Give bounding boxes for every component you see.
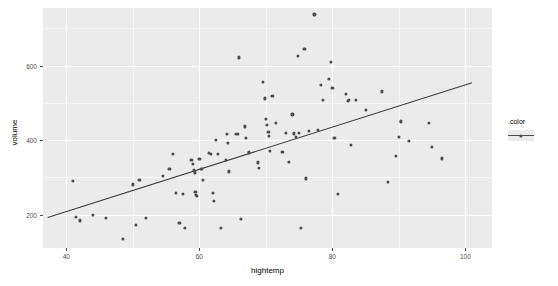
x-axis-tick	[199, 248, 200, 251]
x-axis-tick	[465, 248, 466, 251]
x-axis-title: hightemp	[43, 266, 492, 275]
x-axis-tick-label: 80	[329, 253, 336, 260]
trend-line	[43, 8, 492, 248]
legend: .color	[508, 118, 558, 141]
y-axis-tick-label: 600	[15, 62, 37, 69]
y-axis-title: volume	[10, 103, 19, 163]
x-axis-tick	[66, 248, 67, 251]
y-axis-tick	[40, 140, 43, 141]
x-axis-tick	[332, 248, 333, 251]
legend-key-point-line[interactable]	[508, 130, 534, 141]
chart-root: 406080100 200400600 hightemp volume .col…	[0, 0, 558, 286]
legend-point-glyph	[519, 134, 522, 137]
y-axis-tick-label: 200	[15, 211, 37, 218]
x-axis-tick-label: 40	[63, 253, 70, 260]
x-axis-tick-label: 60	[196, 253, 203, 260]
y-axis-tick	[40, 215, 43, 216]
y-axis-tick	[40, 66, 43, 67]
x-axis-tick-label: 100	[460, 253, 471, 260]
legend-title: .color	[508, 118, 558, 125]
plot-panel	[43, 8, 492, 248]
